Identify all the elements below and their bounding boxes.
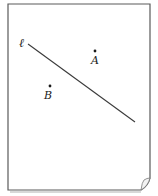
- point-b-label: B: [43, 89, 52, 102]
- line-label: ℓ: [19, 36, 24, 50]
- diagram-page: ℓ A B: [0, 0, 158, 196]
- point-a-label: A: [90, 54, 99, 67]
- paper-shadow: [10, 191, 141, 193]
- diagram-canvas: ℓ A B: [0, 0, 158, 196]
- paper-sheet: [8, 4, 150, 190]
- point-a-dot: [94, 50, 97, 53]
- point-b-dot: [49, 85, 52, 88]
